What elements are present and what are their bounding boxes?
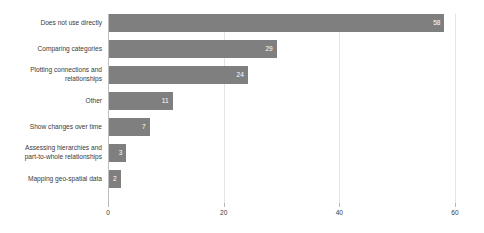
x-tick-mark [224, 203, 225, 207]
bar[interactable]: 58 [109, 14, 444, 32]
x-tick-label: 0 [106, 208, 110, 217]
category-label: Comparing categories [0, 40, 102, 58]
bar[interactable]: 29 [109, 40, 277, 58]
bar-row: 7 [108, 118, 455, 136]
gridline-60 [455, 14, 456, 203]
bar-value-label: 24 [237, 72, 244, 79]
x-tick-label: 40 [336, 208, 343, 217]
bar-row: 3 [108, 144, 455, 162]
bar-row: 11 [108, 92, 455, 110]
x-tick-mark [108, 203, 109, 207]
bar-value-label: 11 [162, 98, 169, 105]
bar-chart: Does not use directly Comparing categori… [0, 0, 484, 233]
bar-value-label: 7 [142, 124, 146, 131]
x-tick-mark [339, 203, 340, 207]
x-axis: 0 20 40 60 [108, 203, 455, 225]
category-label: Does not use directly [0, 14, 102, 32]
bar-value-label: 58 [433, 20, 440, 27]
bar-row: 29 [108, 40, 455, 58]
bar[interactable]: 3 [109, 144, 126, 162]
x-tick-mark [455, 203, 456, 207]
bar-value-label: 2 [113, 176, 117, 183]
bar-value-label: 29 [265, 46, 272, 53]
bar[interactable]: 2 [109, 170, 121, 188]
category-label: Other [0, 92, 102, 110]
category-label: Mapping geo-spatial data [0, 170, 102, 188]
bar[interactable]: 24 [109, 66, 248, 84]
bar[interactable]: 11 [109, 92, 173, 110]
bar-value-label: 3 [119, 150, 123, 157]
category-axis-labels: Does not use directly Comparing categori… [0, 14, 102, 203]
category-label: Assessing hierarchies and part-to-whole … [0, 144, 102, 162]
plot-area: 58 29 24 11 7 3 [108, 14, 455, 203]
x-tick-label: 20 [220, 208, 227, 217]
bar-row: 58 [108, 14, 455, 32]
bar-row: 2 [108, 170, 455, 188]
bar[interactable]: 7 [109, 118, 150, 136]
category-label: Plotting connections and relationships [0, 66, 102, 84]
bar-row: 24 [108, 66, 455, 84]
category-label: Show changes over time [0, 118, 102, 136]
x-tick-label: 60 [451, 208, 458, 217]
